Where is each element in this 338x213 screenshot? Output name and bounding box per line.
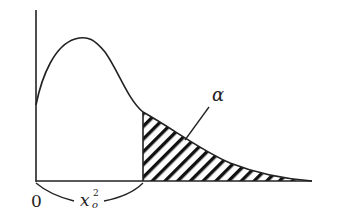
alpha-leader-line: [185, 107, 209, 140]
critical-value-superscript: 2: [93, 188, 99, 198]
critical-value-label: x: [80, 190, 90, 210]
critical-value-base: x: [80, 190, 90, 210]
alpha-label: α: [212, 84, 224, 105]
origin-label: 0: [31, 191, 42, 211]
range-brace: [104, 183, 143, 201]
critical-value-subscript: o: [92, 199, 98, 210]
shaded-tail-region: [143, 100, 318, 182]
chi-square-diagram: 0 x 2 o α: [0, 0, 338, 213]
